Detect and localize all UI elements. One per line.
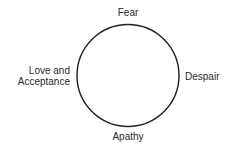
label-despair: Despair <box>185 71 219 82</box>
label-acceptance-line: Acceptance <box>4 76 70 87</box>
cycle-ring <box>77 25 179 127</box>
label-love-and-acceptance: Love and Acceptance <box>4 65 70 87</box>
label-fear: Fear <box>114 7 142 18</box>
label-apathy: Apathy <box>110 131 146 142</box>
label-love-and-line: Love and <box>4 65 70 76</box>
